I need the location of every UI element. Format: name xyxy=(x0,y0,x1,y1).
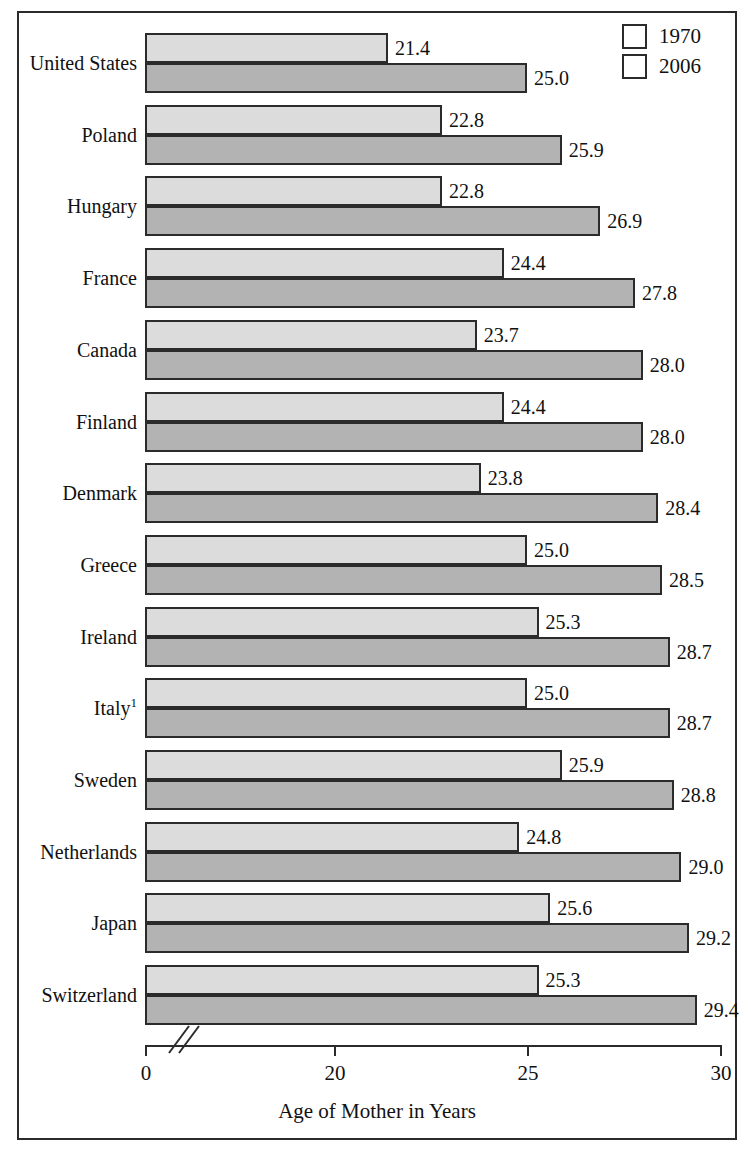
bar-value-1970: 23.7 xyxy=(484,325,519,345)
bar-value-1970: 23.8 xyxy=(488,468,523,488)
x-axis-tick xyxy=(334,1045,336,1056)
bar-1970 xyxy=(145,392,504,422)
bar-value-1970: 24.4 xyxy=(511,253,546,273)
bar-value-1970: 22.8 xyxy=(449,181,484,201)
chart-row: Netherlands24.829.0 xyxy=(19,822,735,882)
x-axis-tick xyxy=(527,1045,529,1056)
bar-value-2006: 29.2 xyxy=(696,928,731,948)
bar-1970 xyxy=(145,463,481,493)
category-footnote-marker: 1 xyxy=(131,696,138,711)
bar-value-1970: 21.4 xyxy=(395,38,430,58)
bar-value-2006: 25.9 xyxy=(569,140,604,160)
bar-value-1970: 25.0 xyxy=(534,683,569,703)
bar-value-1970: 22.8 xyxy=(449,110,484,130)
chart-row: Canada23.728.0 xyxy=(19,320,735,380)
category-label: Japan xyxy=(19,913,137,933)
category-label: United States xyxy=(19,53,137,73)
bar-value-2006: 28.8 xyxy=(681,785,716,805)
bar-1970 xyxy=(145,893,550,923)
bar-value-2006: 29.0 xyxy=(688,857,723,877)
category-label: Greece xyxy=(19,555,137,575)
bar-2006 xyxy=(145,350,643,380)
bar-2006 xyxy=(145,135,562,165)
bar-value-2006: 28.7 xyxy=(677,713,712,733)
bar-2006 xyxy=(145,637,670,667)
chart-row: Denmark23.828.4 xyxy=(19,463,735,523)
category-label: Hungary xyxy=(19,196,137,216)
category-label: France xyxy=(19,268,137,288)
bar-2006 xyxy=(145,565,662,595)
bar-2006 xyxy=(145,206,600,236)
chart-row: Poland22.825.9 xyxy=(19,105,735,165)
figure-frame: 1970 2006 United States21.425.0Poland22.… xyxy=(17,11,737,1140)
bar-1970 xyxy=(145,678,527,708)
category-label: Finland xyxy=(19,412,137,432)
bar-1970 xyxy=(145,822,519,852)
bar-value-1970: 24.8 xyxy=(526,827,561,847)
chart-row: Italy125.028.7 xyxy=(19,678,735,738)
bar-value-1970: 24.4 xyxy=(511,397,546,417)
chart-row: Japan25.629.2 xyxy=(19,893,735,953)
chart-row: Hungary22.826.9 xyxy=(19,176,735,236)
x-axis-tick-label: 25 xyxy=(497,1063,559,1084)
x-axis-tick-label: 20 xyxy=(304,1063,366,1084)
bar-value-2006: 28.0 xyxy=(650,427,685,447)
chart-row: United States21.425.0 xyxy=(19,33,735,93)
x-axis-tick-label: 30 xyxy=(690,1063,751,1084)
chart-row: Switzerland25.329.4 xyxy=(19,965,735,1025)
bar-value-1970: 25.3 xyxy=(546,970,581,990)
bar-1970 xyxy=(145,750,562,780)
bar-value-2006: 28.5 xyxy=(669,570,704,590)
bar-2006 xyxy=(145,422,643,452)
category-label: Italy1 xyxy=(19,698,137,718)
category-label: Canada xyxy=(19,340,137,360)
category-label: Netherlands xyxy=(19,842,137,862)
x-axis-title: Age of Mother in Years xyxy=(19,1101,735,1122)
x-axis-tick xyxy=(145,1045,147,1056)
bar-1970 xyxy=(145,320,477,350)
bar-1970 xyxy=(145,535,527,565)
chart-plot-area: 1970 2006 United States21.425.0Poland22.… xyxy=(19,13,735,1138)
bar-value-2006: 29.4 xyxy=(704,1000,739,1020)
bar-1970 xyxy=(145,176,442,206)
bar-2006 xyxy=(145,923,689,953)
category-label: Denmark xyxy=(19,483,137,503)
bar-value-2006: 28.4 xyxy=(665,498,700,518)
bar-value-2006: 25.0 xyxy=(534,68,569,88)
bar-2006 xyxy=(145,493,658,523)
bar-value-1970: 25.6 xyxy=(557,898,592,918)
bar-value-2006: 27.8 xyxy=(642,283,677,303)
category-label: Sweden xyxy=(19,770,137,790)
category-label: Ireland xyxy=(19,627,137,647)
chart-row: Greece25.028.5 xyxy=(19,535,735,595)
bar-1970 xyxy=(145,248,504,278)
bar-1970 xyxy=(145,607,539,637)
chart-row: Finland24.428.0 xyxy=(19,392,735,452)
bar-2006 xyxy=(145,852,681,882)
x-axis-tick-label: 0 xyxy=(115,1063,177,1084)
bar-1970 xyxy=(145,965,539,995)
bar-2006 xyxy=(145,278,635,308)
category-label: Poland xyxy=(19,125,137,145)
bar-1970 xyxy=(145,33,388,63)
bar-value-1970: 25.0 xyxy=(534,540,569,560)
x-axis-line xyxy=(145,1045,722,1047)
bar-value-1970: 25.3 xyxy=(546,612,581,632)
axis-break-icon xyxy=(163,1023,205,1057)
bar-value-1970: 25.9 xyxy=(569,755,604,775)
chart-row: Ireland25.328.7 xyxy=(19,607,735,667)
bar-2006 xyxy=(145,780,674,810)
bar-2006 xyxy=(145,63,527,93)
category-label: Switzerland xyxy=(19,985,137,1005)
chart-row: France24.427.8 xyxy=(19,248,735,308)
bar-2006 xyxy=(145,995,697,1025)
bar-value-2006: 26.9 xyxy=(607,211,642,231)
bar-2006 xyxy=(145,708,670,738)
bar-1970 xyxy=(145,105,442,135)
bar-value-2006: 28.0 xyxy=(650,355,685,375)
bar-value-2006: 28.7 xyxy=(677,642,712,662)
chart-row: Sweden25.928.8 xyxy=(19,750,735,810)
x-axis-tick xyxy=(720,1045,722,1056)
